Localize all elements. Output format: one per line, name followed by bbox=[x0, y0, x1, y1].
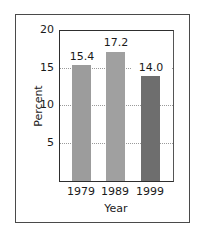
bar-1999 bbox=[141, 76, 160, 181]
x-tick-1979: 1979 bbox=[64, 186, 98, 198]
x-tick-1999: 1999 bbox=[133, 186, 167, 198]
y-tick-20: 20 bbox=[34, 24, 54, 36]
y-tick-5: 5 bbox=[34, 137, 54, 149]
bar-1979 bbox=[72, 65, 91, 181]
bar-1989 bbox=[106, 52, 125, 181]
plot-area: 15.4 17.2 14.0 bbox=[59, 30, 174, 182]
y-tick-15: 15 bbox=[34, 62, 54, 74]
bar-value-1979: 15.4 bbox=[62, 51, 102, 63]
bar-value-1989: 17.2 bbox=[96, 37, 136, 49]
x-tick-1989: 1989 bbox=[98, 186, 132, 198]
bar-value-1999: 14.0 bbox=[131, 62, 171, 74]
y-axis-label: Percent bbox=[33, 81, 45, 131]
x-axis-label: Year bbox=[96, 203, 136, 215]
